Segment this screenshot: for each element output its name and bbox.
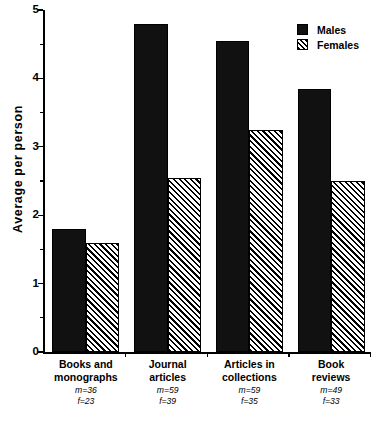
bar-males — [134, 24, 168, 352]
y-axis-line — [43, 10, 45, 352]
bar-males — [52, 229, 86, 352]
x-tick — [207, 352, 208, 357]
bar-chart: Average per person 012345 Books andmonog… — [0, 0, 377, 422]
bar-males — [216, 41, 250, 352]
y-tick-minor — [40, 112, 44, 113]
y-tick-label: 3 — [33, 141, 39, 153]
y-tick-minor — [40, 180, 44, 181]
x-tick — [125, 352, 126, 357]
y-tick-label: 2 — [33, 209, 39, 221]
x-axis-sample-size: m=49f=33 — [271, 385, 377, 406]
x-axis-label-line: Articles in — [224, 358, 275, 370]
sample-size-males: m=36 — [75, 385, 97, 395]
sample-size-males: m=59 — [239, 385, 261, 395]
plot-area: 012345 — [43, 10, 370, 352]
legend-swatch-males-icon — [297, 24, 308, 35]
bar-females — [86, 243, 120, 352]
legend-label-males: Males — [317, 24, 346, 36]
y-tick-minor — [40, 249, 44, 250]
bar-females — [249, 130, 283, 352]
bar-females — [168, 178, 202, 352]
bar-males — [298, 89, 332, 352]
y-tick-minor — [40, 44, 44, 45]
bar-females — [331, 181, 365, 352]
x-tick — [370, 352, 371, 357]
y-tick-label: 5 — [33, 4, 39, 16]
y-tick-minor — [40, 317, 44, 318]
x-axis-label-line: Book — [318, 358, 344, 370]
legend-swatch-females-icon — [297, 39, 308, 50]
y-tick-label: 0 — [33, 346, 39, 358]
y-tick-label: 1 — [33, 278, 39, 290]
x-axis-label-line: reviews — [271, 371, 377, 384]
legend-item-females: Females — [297, 37, 359, 52]
sample-size-males: m=59 — [157, 385, 179, 395]
y-axis-title: Average per person — [11, 79, 25, 259]
sample-size-males: m=49 — [320, 385, 342, 395]
y-tick-label: 4 — [33, 73, 39, 85]
x-axis-label-line: Books and — [59, 358, 113, 370]
sample-size-females: f=33 — [271, 396, 377, 407]
legend-label-females: Females — [317, 39, 359, 51]
x-tick — [288, 352, 289, 357]
x-axis-label-line: Journal — [149, 358, 187, 370]
x-axis-label: Bookreviews — [271, 358, 377, 383]
legend-item-males: Males — [297, 22, 359, 37]
legend: Males Females — [297, 22, 359, 52]
